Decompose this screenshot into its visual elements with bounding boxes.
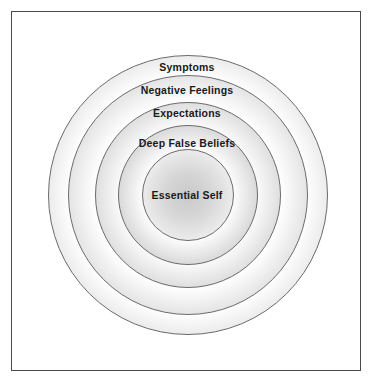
diagram-root: Symptoms Negative Feelings Expectations … bbox=[0, 0, 374, 380]
ring-label-negative-feelings: Negative Feelings bbox=[0, 85, 374, 96]
ring-label-expectations: Expectations bbox=[0, 108, 374, 119]
concentric-rings-stage: Symptoms Negative Feelings Expectations … bbox=[0, 0, 374, 380]
ring-label-symptoms: Symptoms bbox=[0, 62, 374, 73]
ring-label-deep-false-beliefs: Deep False Beliefs bbox=[0, 138, 374, 149]
ring-label-essential-self: Essential Self bbox=[0, 190, 374, 201]
